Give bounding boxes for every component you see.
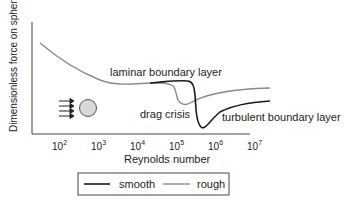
legend-label-rough: rough [197, 178, 225, 190]
x-tick-label: 104 [130, 139, 145, 152]
annotation-turbulent: turbulent boundary layer [222, 111, 341, 123]
x-tick-label: 107 [247, 139, 262, 152]
x-tick-label: 105 [169, 139, 184, 152]
x-tick-label: 106 [208, 139, 223, 152]
x-axis-label: Reynolds number [124, 153, 211, 165]
x-tick-label: 103 [91, 139, 106, 152]
y-axis-label: Dimensionless force on sphere [8, 0, 19, 132]
x-tick-label: 102 [52, 139, 67, 152]
legend-label-smooth: smooth [119, 178, 155, 190]
drag-chart: Dimensionless force on sphere 102 103 10… [0, 0, 349, 205]
legend: smooth rough [78, 173, 229, 195]
annotation-laminar: laminar boundary layer [110, 66, 222, 78]
x-tick-labels: 102 103 104 105 106 107 [52, 139, 262, 152]
sphere-icon [80, 100, 97, 117]
annotation-drag-crisis: drag crisis [140, 108, 191, 120]
flow-arrows-icon [59, 99, 74, 119]
